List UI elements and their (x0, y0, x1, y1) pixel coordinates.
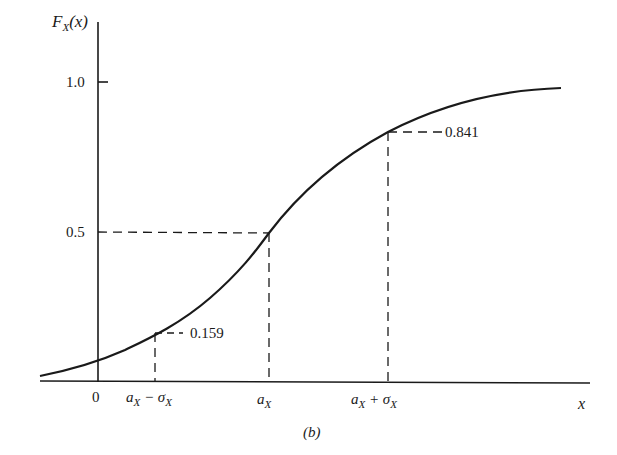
mean-sub: X (359, 398, 366, 410)
ylabel-sub: X (62, 21, 69, 33)
annotation-0159: 0.159 (190, 326, 224, 341)
mean-symbol: a (126, 389, 134, 405)
cdf-plot (0, 0, 617, 455)
mean-sub: X (134, 396, 141, 408)
x-tick-label-mean-plus-sigma: aX + σX (351, 392, 397, 407)
plus-sigma: + σ (365, 391, 390, 407)
y-tick-label-05: 0.5 (66, 225, 85, 240)
mean-sub: X (265, 398, 272, 410)
annotation-0841: 0.841 (445, 125, 479, 140)
minus-sigma: − σ (140, 389, 165, 405)
y-tick-label-1: 1.0 (66, 75, 85, 90)
x-tick-label-zero: 0 (92, 390, 100, 405)
ylabel-main: F (52, 12, 62, 31)
mean-symbol: a (351, 391, 359, 407)
figure-caption: (b) (303, 425, 321, 440)
x-tick-label-mean-minus-sigma: aX − σX (126, 390, 172, 405)
y-axis-label: FX(x) (52, 13, 88, 30)
sigma-sub: X (165, 396, 172, 408)
sigma-sub: X (390, 398, 397, 410)
x-tick-label-mean: aX (257, 392, 271, 407)
mean-symbol: a (257, 391, 265, 407)
x-axis-label: x (578, 396, 585, 412)
x-axis (40, 381, 590, 383)
guide-05-horizontal (98, 232, 269, 233)
ylabel-arg: (x) (69, 12, 88, 31)
